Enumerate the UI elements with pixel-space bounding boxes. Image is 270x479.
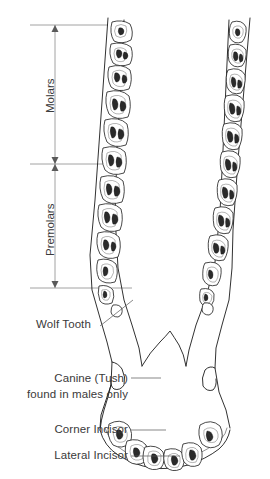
tooth (111, 21, 132, 43)
tooth (110, 43, 132, 66)
tooth (98, 204, 122, 232)
tooth (203, 262, 221, 286)
jaw-diagram: .ink { fill:none; stroke:#1a1a1a; stroke… (0, 0, 270, 479)
left-cheek-tooth-row (97, 21, 133, 317)
tooth (100, 176, 124, 204)
corner-incisor-right (199, 422, 222, 448)
tooth (98, 286, 114, 305)
callout-label-wolf-tooth: Wolf Tooth (36, 318, 91, 330)
tooth (97, 259, 118, 283)
bracket-label-molars: Molars (44, 78, 56, 113)
bracket-molars (30, 25, 108, 164)
tooth (224, 95, 244, 122)
tooth (222, 123, 242, 150)
callout-label-lateral-incisor: Lateral Incisor (18, 449, 128, 461)
tooth (102, 147, 126, 175)
callout-label-canine-tush-line2: found in males only (8, 388, 128, 400)
tooth (228, 44, 246, 67)
right-cheek-tooth-row (200, 21, 247, 315)
lateral-incisor-right (182, 443, 202, 467)
tooth (217, 179, 237, 206)
tooth (106, 91, 130, 119)
tooth (104, 119, 128, 147)
callout-label-corner-incisor: Corner Incisor (18, 423, 128, 435)
central-incisor-left (143, 446, 164, 469)
tooth (229, 21, 246, 43)
diagram-root: .ink { fill:none; stroke:#1a1a1a; stroke… (0, 0, 270, 479)
tooth (226, 69, 245, 94)
tooth (97, 232, 120, 259)
wolf-tooth-right (202, 303, 213, 315)
wolf-tooth-left (111, 305, 122, 317)
tooth (208, 235, 228, 261)
bracket-label-premolars: Premolars (44, 204, 56, 256)
tooth (213, 207, 233, 234)
callout-label-canine-tush-line1: Canine (Tush) (14, 372, 128, 384)
tooth (108, 66, 131, 91)
central-incisor-right (164, 449, 184, 471)
tooth (220, 151, 240, 178)
